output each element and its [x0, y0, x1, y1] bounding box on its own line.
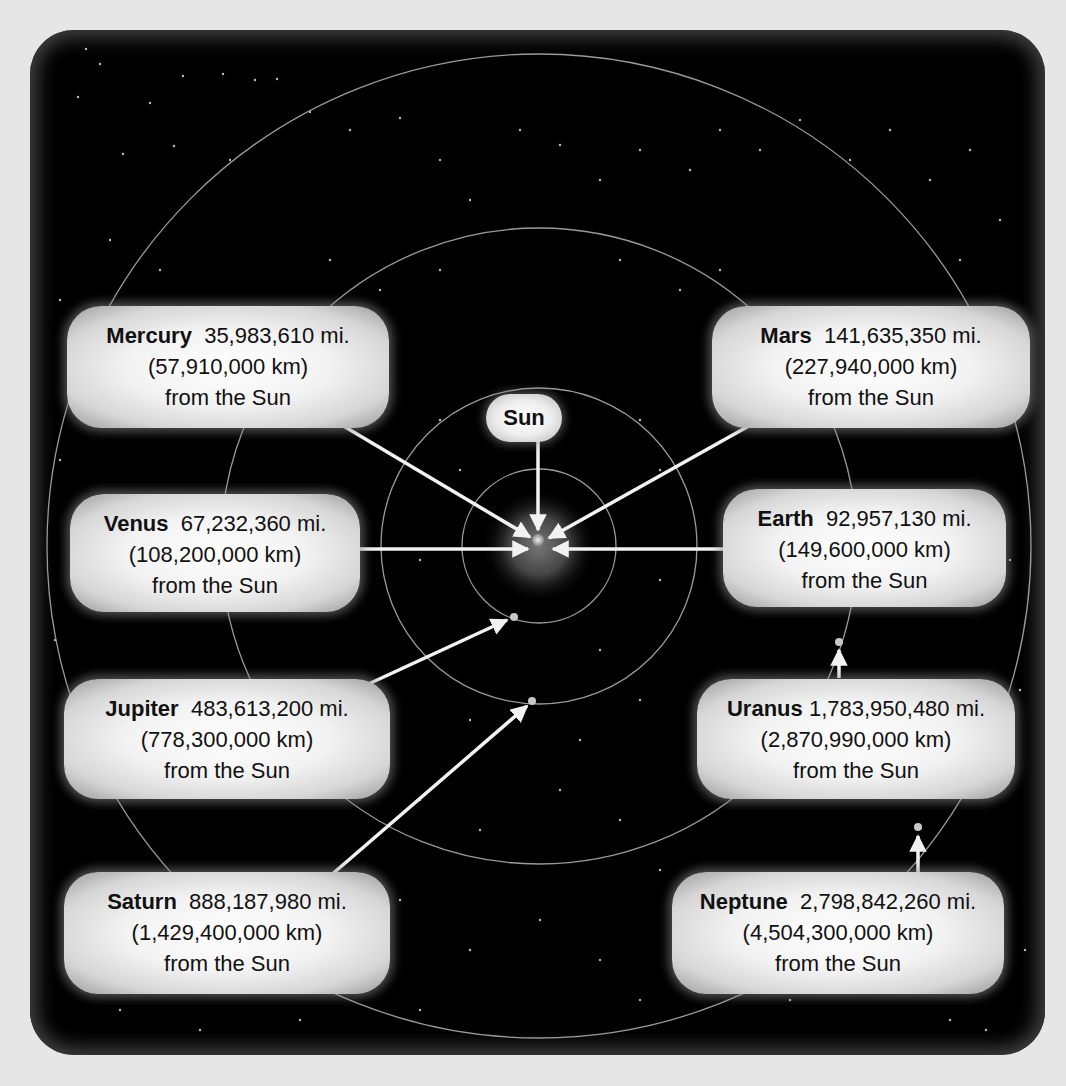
- sun-label: Sun: [486, 394, 562, 442]
- distance-miles: 92,957,130 mi.: [826, 506, 972, 531]
- distance-km: (108,200,000 km): [70, 539, 360, 570]
- planet-label-neptune: Neptune 2,798,842,260 mi. (4,504,300,000…: [672, 872, 1004, 994]
- distance-miles: 141,635,350 mi.: [824, 323, 982, 348]
- label-suffix: from the Sun: [64, 755, 390, 786]
- sun-icon: [532, 534, 544, 546]
- planet-name: Uranus: [727, 696, 803, 721]
- planet-name: Earth: [757, 506, 813, 531]
- planet-name: Mars: [760, 323, 811, 348]
- distance-miles: 67,232,360 mi.: [181, 511, 327, 536]
- planet-label-uranus: Uranus 1,783,950,480 mi. (2,870,990,000 …: [697, 679, 1015, 799]
- planet-dot-saturn: [528, 697, 536, 705]
- planet-label-mars: Mars 141,635,350 mi. (227,940,000 km) fr…: [712, 306, 1030, 428]
- planet-name: Saturn: [107, 889, 177, 914]
- label-suffix: from the Sun: [67, 382, 389, 413]
- distance-km: (1,429,400,000 km): [64, 917, 390, 948]
- planet-name: Neptune: [700, 889, 788, 914]
- planet-label-jupiter: Jupiter 483,613,200 mi. (778,300,000 km)…: [64, 679, 390, 799]
- planet-name: Jupiter: [105, 696, 178, 721]
- planet-name: Mercury: [106, 323, 192, 348]
- distance-miles: 35,983,610 mi.: [204, 323, 350, 348]
- distance-miles: 2,798,842,260 mi.: [800, 889, 976, 914]
- label-suffix: from the Sun: [70, 570, 360, 601]
- planet-label-mercury: Mercury 35,983,610 mi. (57,910,000 km) f…: [67, 306, 389, 428]
- distance-km: (149,600,000 km): [723, 534, 1006, 565]
- distance-km: (4,504,300,000 km): [672, 917, 1004, 948]
- label-suffix: from the Sun: [723, 565, 1006, 596]
- label-suffix: from the Sun: [672, 948, 1004, 979]
- distance-km: (57,910,000 km): [67, 351, 389, 382]
- label-suffix: from the Sun: [712, 382, 1030, 413]
- distance-miles: 483,613,200 mi.: [191, 696, 349, 721]
- planet-dot-uranus: [835, 638, 843, 646]
- planet-label-earth: Earth 92,957,130 mi. (149,600,000 km) fr…: [723, 489, 1006, 607]
- label-suffix: from the Sun: [697, 755, 1015, 786]
- planet-dot-jupiter: [510, 613, 518, 621]
- distance-miles: 1,783,950,480 mi.: [809, 696, 985, 721]
- arrow-jupiter: [362, 620, 507, 687]
- planet-name: Venus: [104, 511, 169, 536]
- distance-km: (2,870,990,000 km): [697, 724, 1015, 755]
- label-suffix: from the Sun: [64, 948, 390, 979]
- planet-dot-neptune: [914, 823, 922, 831]
- planet-label-venus: Venus 67,232,360 mi. (108,200,000 km) fr…: [70, 494, 360, 612]
- distance-km: (778,300,000 km): [64, 724, 390, 755]
- pointer-arrows: [320, 412, 918, 883]
- planet-label-saturn: Saturn 888,187,980 mi. (1,429,400,000 km…: [64, 872, 390, 994]
- distance-km: (227,940,000 km): [712, 351, 1030, 382]
- distance-miles: 888,187,980 mi.: [189, 889, 347, 914]
